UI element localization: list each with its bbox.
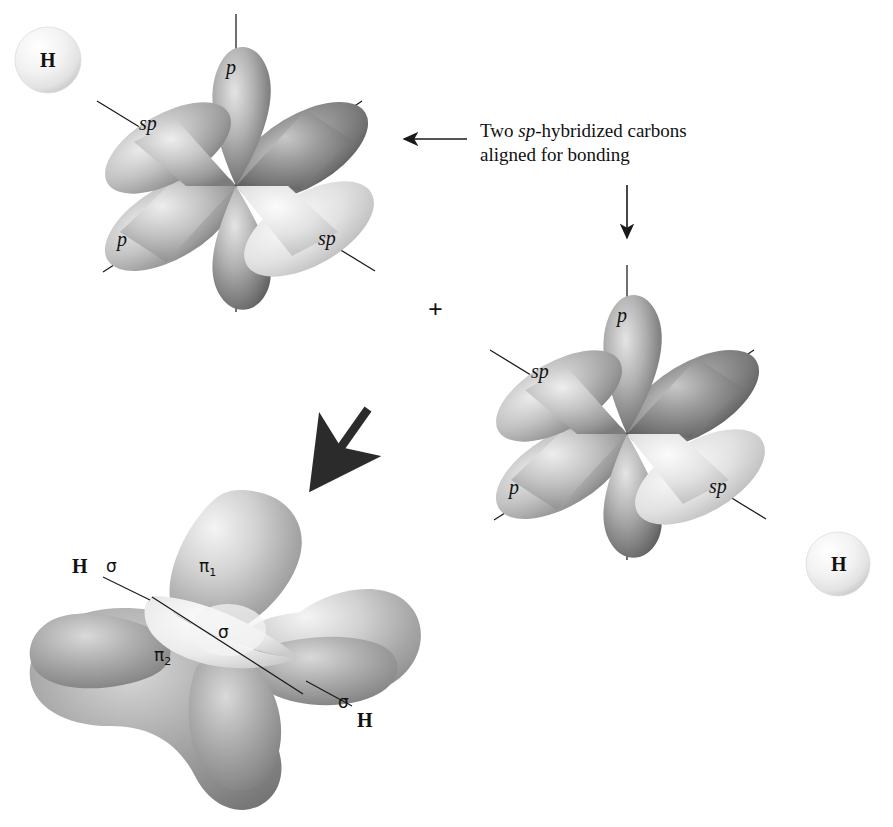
bond-hydrogen-label-right: H xyxy=(357,710,373,730)
orbital-set-2 xyxy=(480,265,780,560)
orbital-artwork xyxy=(0,0,893,827)
orbital-label-sp-lower-right-2: sp xyxy=(709,476,727,496)
annotation-line1-pre: Two xyxy=(480,120,518,141)
orbital-label-sp-upper-left-1: sp xyxy=(139,113,157,133)
orbital-label-p-up-2: p xyxy=(617,305,627,325)
orbital-set-1 xyxy=(89,14,389,312)
pi1-label: π1 xyxy=(199,558,216,578)
sigma-label-right: σ xyxy=(338,694,349,711)
plus-symbol: + xyxy=(428,297,443,323)
leader-left-sigma xyxy=(103,577,150,600)
annotation-line1-italic: sp xyxy=(518,120,535,141)
pi1-subscript: 1 xyxy=(209,566,216,579)
pi2-label: π2 xyxy=(154,647,171,667)
orbital-label-p-lower-left-2: p xyxy=(509,477,519,497)
annotation-text: Two sp-hybridized carbons aligned for bo… xyxy=(480,119,687,167)
orbital-label-p-up-1: p xyxy=(226,57,236,77)
orbital-label-sp-upper-left-2: sp xyxy=(531,361,549,381)
orbital-label-p-lower-left-1: p xyxy=(117,229,127,249)
figure-canvas: H H p sp p sp p sp p sp + Two sp-hybridi… xyxy=(0,0,893,827)
pi2-subscript: 2 xyxy=(164,655,171,668)
annotation-line2: aligned for bonding xyxy=(480,143,687,167)
bonded-molecule xyxy=(30,490,421,810)
reaction-diagonal-arrow xyxy=(315,409,368,484)
bond-hydrogen-label-left: H xyxy=(72,556,88,576)
pi1-symbol: π xyxy=(199,556,209,576)
pi2-symbol: π xyxy=(154,645,164,665)
hydrogen-label-top-left: H xyxy=(40,50,56,70)
sigma-label-left: σ xyxy=(106,558,117,575)
orbital-label-sp-lower-right-1: sp xyxy=(318,228,336,248)
sigma-label-center: σ xyxy=(218,624,229,641)
hydrogen-label-bottom-right: H xyxy=(831,554,847,574)
annotation-line1-post: -hybridized carbons xyxy=(535,120,686,141)
